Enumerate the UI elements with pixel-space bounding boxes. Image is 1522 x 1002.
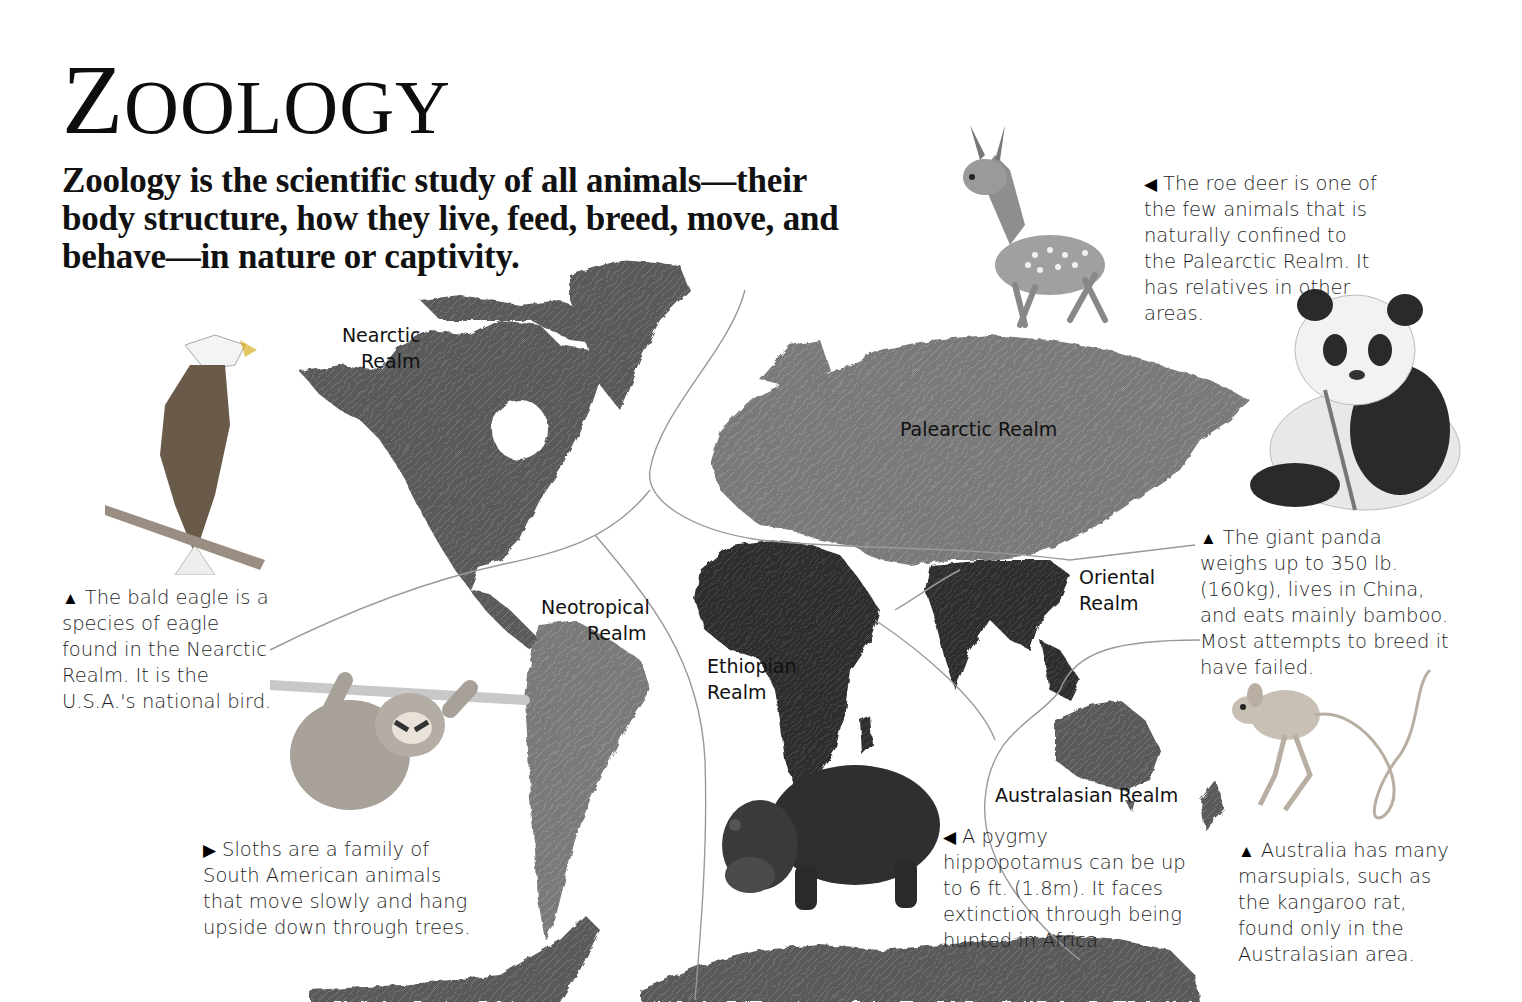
realm-label-line: Realm	[309, 348, 420, 374]
north-america-landmass	[300, 260, 690, 650]
caption-bald-eagle: ▲The bald eagle is a species of eagle fo…	[62, 585, 272, 715]
realm-label-neotropical: Neotropical Realm	[541, 594, 650, 646]
south-america-landmass	[525, 620, 650, 940]
caption-text: The giant panda weighs up to 350 lb. (16…	[1200, 526, 1449, 679]
realm-label-line: Nearctic	[309, 322, 420, 348]
left-pointer-icon: ◀	[943, 827, 956, 847]
right-pointer-icon: ▶	[203, 840, 216, 860]
realm-label-line: Realm	[1079, 590, 1155, 616]
caption-text: Sloths are a family of South American an…	[203, 838, 470, 939]
realm-label-line: Neotropical	[541, 594, 650, 620]
realm-label-line: Australasian Realm	[995, 782, 1178, 808]
pygmy-hippopotamus-illustration	[715, 755, 940, 915]
caption-giant-panda: ▲The giant panda weighs up to 350 lb. (1…	[1200, 525, 1450, 681]
up-pointer-icon: ▲	[62, 588, 79, 608]
caption-kangaroo-rat: ▲Australia has many marsupials, such as …	[1238, 838, 1453, 968]
realm-label-line: Ethiopian	[707, 653, 796, 679]
caption-text: The roe deer is one of the few animals t…	[1144, 172, 1377, 325]
realm-label-line: Realm	[541, 620, 650, 646]
sloth-illustration	[270, 640, 530, 820]
realm-label-australasian: Australasian Realm	[995, 782, 1178, 808]
kangaroo-rat-illustration	[1225, 665, 1435, 825]
realm-label-line: Oriental	[1079, 564, 1155, 590]
australia-landmass	[1055, 700, 1225, 830]
caption-text: A pygmy hippopotamus can be up to 6 ft. …	[943, 825, 1186, 952]
realm-label-palearctic: Palearctic Realm	[900, 416, 1057, 442]
caption-pygmy-hippopotamus: ◀A pygmy hippopotamus can be up to 6 ft.…	[943, 824, 1193, 954]
up-pointer-icon: ▲	[1200, 528, 1217, 548]
left-pointer-icon: ◀	[1144, 174, 1157, 194]
realm-label-oriental: Oriental Realm	[1079, 564, 1155, 616]
roe-deer-illustration	[940, 115, 1140, 330]
bald-eagle-illustration	[105, 305, 265, 575]
caption-roe-deer: ◀The roe deer is one of the few animals …	[1144, 171, 1384, 327]
caption-text: The bald eagle is a species of eagle fou…	[62, 586, 271, 713]
caption-text: Australia has many marsupials, such as t…	[1238, 839, 1449, 966]
realm-label-ethiopian: Ethiopian Realm	[707, 653, 796, 705]
realm-label-nearctic: Nearctic Realm	[309, 322, 420, 374]
realm-label-line: Palearctic Realm	[900, 416, 1057, 442]
eurasia-landmass	[710, 335, 1250, 565]
up-pointer-icon: ▲	[1238, 841, 1255, 861]
caption-sloth: ▶Sloths are a family of South American a…	[203, 837, 478, 941]
realm-label-line: Realm	[707, 679, 796, 705]
